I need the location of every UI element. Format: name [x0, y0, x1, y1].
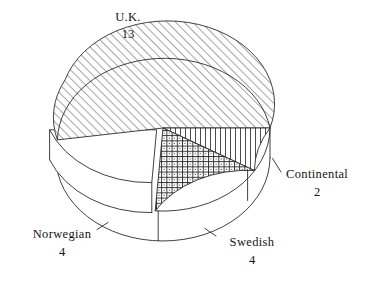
- swedish-label-value: 4: [249, 253, 256, 267]
- norwegian-label-value: 4: [59, 245, 66, 259]
- pie-chart-canvas: U.K. 13 Continental 2 Norwegian 4 Swedis…: [0, 0, 374, 282]
- label-continental: Continental 2: [286, 167, 348, 199]
- swedish-label-name: Swedish: [230, 235, 275, 249]
- pie-chart-figure: U.K. 13 Continental 2 Norwegian 4 Swedis…: [0, 0, 374, 282]
- leader-line-continental: [273, 159, 282, 173]
- label-norwegian: Norwegian 4: [33, 227, 92, 259]
- uk-label-name: U.K.: [115, 10, 141, 24]
- pie-slice-uk[interactable]: [53, 21, 274, 140]
- continental-label-value: 2: [314, 185, 320, 199]
- uk-label-value: 13: [122, 27, 135, 41]
- label-swedish: Swedish 4: [230, 235, 275, 267]
- norwegian-label-name: Norwegian: [33, 227, 92, 241]
- pie-slice-norwegian[interactable]: [50, 130, 157, 213]
- continental-label-name: Continental: [286, 167, 348, 181]
